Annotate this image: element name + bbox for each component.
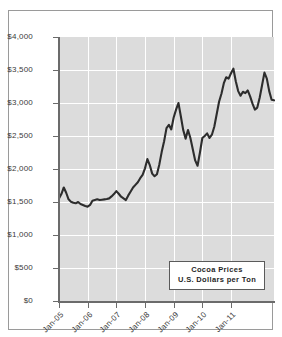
y-axis-tick-label: $3,500 xyxy=(7,65,33,74)
y-axis-tick-label: $4,000 xyxy=(7,32,33,41)
y-axis-tick-label: $0 xyxy=(24,296,33,305)
x-axis-tick-mark xyxy=(202,302,203,308)
y-axis-tick-mark xyxy=(53,169,59,170)
x-axis-tick-mark xyxy=(59,302,60,308)
y-axis-tick-label: $1,500 xyxy=(7,197,33,206)
x-axis-tick-label: Jan-05 xyxy=(0,310,65,337)
x-axis-line xyxy=(58,301,275,303)
y-axis-tick-mark xyxy=(53,268,59,269)
y-axis-tick-label: $2,000 xyxy=(7,164,33,173)
x-axis-tick-mark xyxy=(145,302,146,308)
y-axis-tick-mark xyxy=(53,70,59,71)
figure: Cocoa Prices U.S. Dollars per Ton $0$500… xyxy=(0,0,282,337)
x-axis-tick-mark xyxy=(116,302,117,308)
y-axis-tick-label: $1,000 xyxy=(7,230,33,239)
plot-area: Cocoa Prices U.S. Dollars per Ton xyxy=(59,37,274,301)
y-axis-tick-mark xyxy=(53,103,59,104)
y-axis-tick-label: $500 xyxy=(14,263,33,272)
y-axis-tick-label: $3,000 xyxy=(7,98,33,107)
y-axis-tick-label: $2,500 xyxy=(7,131,33,140)
y-axis-tick-mark xyxy=(53,202,59,203)
legend-subtitle: U.S. Dollars per Ton xyxy=(172,275,262,285)
y-axis-tick-mark xyxy=(53,235,59,236)
chart-frame: Cocoa Prices U.S. Dollars per Ton $0$500… xyxy=(8,10,273,330)
x-axis-tick-mark xyxy=(88,302,89,308)
x-axis-tick-mark xyxy=(174,302,175,308)
chart-legend-box: Cocoa Prices U.S. Dollars per Ton xyxy=(169,261,265,290)
cocoa-price-line xyxy=(59,69,274,207)
x-axis-tick-mark xyxy=(231,302,232,308)
y-axis-tick-mark xyxy=(53,37,59,38)
y-axis-tick-mark xyxy=(53,136,59,137)
legend-title: Cocoa Prices xyxy=(172,265,262,275)
